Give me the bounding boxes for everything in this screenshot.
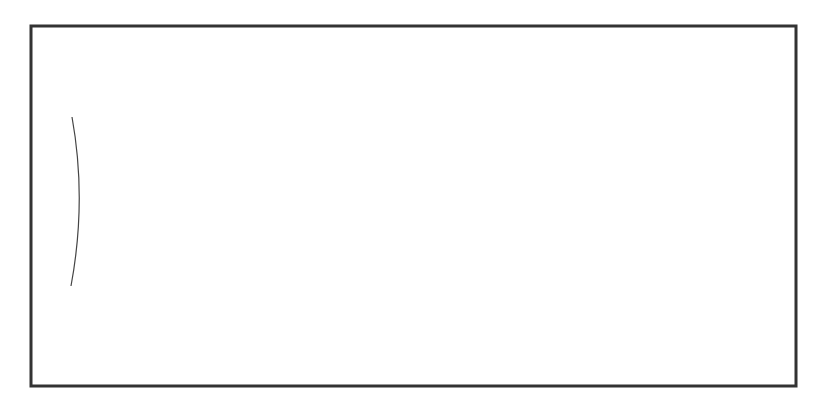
fretboard-diagram bbox=[0, 0, 817, 410]
string-range-brace-icon bbox=[71, 117, 79, 286]
diagram-frame bbox=[31, 26, 796, 386]
